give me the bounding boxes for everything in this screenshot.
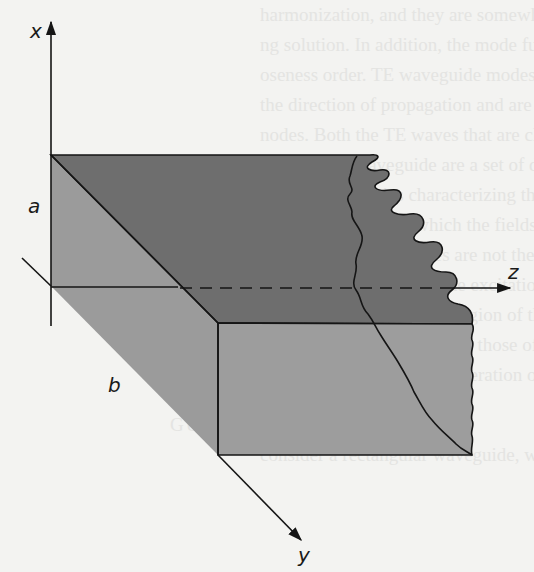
y-axis: [218, 455, 301, 540]
waveguide-diagram: x z y a b: [0, 0, 534, 572]
dimension-b-label: b: [108, 373, 121, 397]
dimension-a-label: a: [28, 194, 40, 218]
front-face: [218, 323, 473, 455]
x-axis-label: x: [29, 19, 42, 43]
y-axis-label: y: [297, 543, 311, 567]
y-axis-back: [22, 258, 51, 286]
z-axis-label: z: [507, 260, 519, 284]
